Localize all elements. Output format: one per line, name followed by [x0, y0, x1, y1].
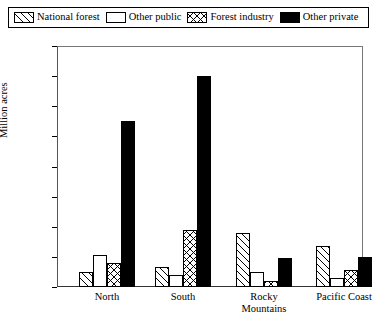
legend-label-national-forest: National forest: [37, 12, 100, 23]
bar-other-public-south: [169, 275, 183, 287]
x-tick-label-line: South: [138, 291, 228, 303]
bar-other-private-pacific-coast: [358, 257, 372, 287]
legend-item-other-public: Other public: [106, 12, 182, 23]
bar-other-public-rocky-mountains: [250, 272, 264, 287]
bar-forest-industry-rocky-mountains: [264, 281, 278, 287]
chart-legend: National forest Other public Forest indu…: [8, 7, 369, 28]
bar-series-layer: [57, 46, 363, 287]
bar-other-private-north: [121, 121, 135, 287]
legend-swatch-cross-hatch-icon: [187, 12, 207, 23]
legend-swatch-solid-icon: [280, 12, 300, 23]
x-tick-label-rocky-mountains: RockyMountains: [219, 291, 309, 315]
legend-label-other-public: Other public: [129, 12, 182, 23]
legend-item-national-forest: National forest: [14, 12, 100, 23]
y-axis-label: Million acres: [0, 82, 9, 138]
bar-forest-industry-pacific-coast: [344, 270, 358, 287]
x-tick-label-line: Rocky: [219, 291, 309, 303]
legend-item-forest-industry: Forest industry: [187, 12, 273, 23]
y-tick-mark: [52, 287, 57, 288]
x-tick-label-line: Mountains: [219, 303, 309, 315]
bar-national-forest-pacific-coast: [316, 246, 330, 287]
bar-national-forest-north: [79, 272, 93, 287]
legend-label-other-private: Other private: [303, 12, 359, 23]
x-tick-label-line: Pacific Coast: [299, 291, 377, 303]
bar-other-public-north: [93, 255, 107, 287]
bar-national-forest-south: [155, 267, 169, 287]
bar-other-private-rocky-mountains: [278, 258, 292, 287]
bar-other-public-pacific-coast: [330, 278, 344, 287]
legend-item-other-private: Other private: [280, 12, 359, 23]
legend-label-forest-industry: Forest industry: [210, 12, 273, 23]
bar-forest-industry-south: [183, 230, 197, 287]
bar-national-forest-rocky-mountains: [236, 233, 250, 287]
bar-forest-industry-north: [107, 263, 121, 287]
bar-other-private-south: [197, 76, 211, 287]
legend-swatch-diagonal-hatch-icon: [14, 12, 34, 23]
legend-swatch-empty-icon: [106, 12, 126, 23]
x-tick-label-pacific-coast: Pacific Coast: [299, 291, 377, 303]
x-tick-label-south: South: [138, 291, 228, 303]
